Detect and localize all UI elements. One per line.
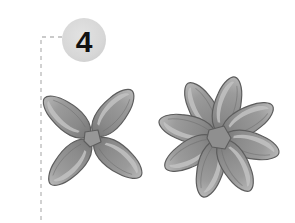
flower-illustration-svg: 4 bbox=[0, 0, 295, 223]
step-badge: 4 bbox=[62, 18, 106, 62]
illustration-canvas: 4 bbox=[0, 0, 295, 223]
step-badge-number: 4 bbox=[76, 25, 93, 58]
